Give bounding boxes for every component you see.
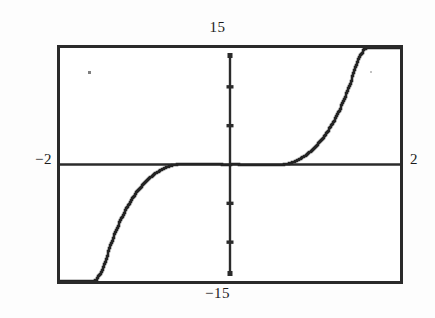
scan-speck-artifact xyxy=(88,71,91,74)
scan-speck-artifact-2 xyxy=(370,71,372,73)
plot-frame xyxy=(57,45,403,284)
x-max-label: 2 xyxy=(410,152,432,167)
y-max-label: 15 xyxy=(0,20,435,35)
y-min-label: −15 xyxy=(0,286,435,301)
graphing-calculator-screenshot: 15 −15 −2 2 xyxy=(0,0,435,318)
x-min-label: −2 xyxy=(14,152,52,167)
plot-canvas xyxy=(60,48,400,281)
